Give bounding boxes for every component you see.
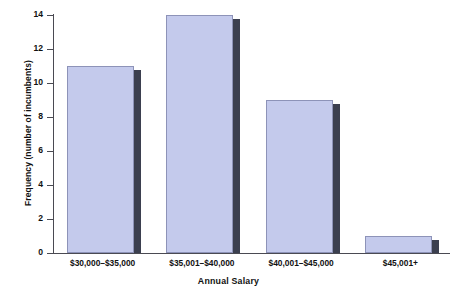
- bar: [266, 100, 333, 253]
- bar-shadow: [333, 104, 340, 253]
- x-axis-line: [53, 253, 450, 254]
- y-tick-label: 12: [3, 44, 43, 53]
- y-tick-mark: [47, 117, 53, 118]
- bar-shadow: [233, 19, 240, 253]
- y-tick-mark: [47, 219, 53, 220]
- x-tick-label: $35,001–$40,000: [152, 258, 251, 268]
- y-tick-mark: [47, 49, 53, 50]
- y-tick-mark: [47, 185, 53, 186]
- figure-caption: [0, 290, 457, 296]
- bar: [67, 66, 134, 253]
- bar: [166, 15, 233, 253]
- bar-shadow: [134, 70, 141, 253]
- y-tick-label: 4: [3, 180, 43, 189]
- y-tick-label: 14: [3, 10, 43, 19]
- y-tick-label: 0: [3, 248, 43, 257]
- x-tick-label: $45,001+: [351, 258, 450, 268]
- y-tick-label: 10: [3, 78, 43, 87]
- y-tick-label: 2: [3, 214, 43, 223]
- y-tick-label: 8: [3, 112, 43, 121]
- y-tick-label: 6: [3, 146, 43, 155]
- y-tick-mark: [47, 253, 53, 254]
- y-axis-title: Frequency (number of incumbents): [23, 33, 33, 233]
- bar: [365, 236, 432, 253]
- x-tick-label: $40,001–$45,000: [252, 258, 351, 268]
- bar-shadow: [432, 240, 439, 253]
- y-tick-mark: [47, 151, 53, 152]
- x-tick-label: $30,000–$35,000: [53, 258, 152, 268]
- histogram-chart: Frequency (number of incumbents) 0246810…: [0, 0, 457, 296]
- y-axis-line: [53, 14, 54, 254]
- y-tick-mark: [47, 15, 53, 16]
- y-tick-mark: [47, 83, 53, 84]
- x-axis-title: Annual Salary: [0, 276, 457, 286]
